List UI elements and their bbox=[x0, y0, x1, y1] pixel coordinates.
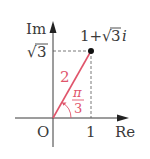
imag-axis-arrow-icon bbox=[50, 21, 57, 33]
point-label-value: 3 bbox=[111, 27, 121, 45]
point-label-prefix: 1+ bbox=[80, 27, 102, 45]
real-axis-label: Re bbox=[115, 123, 135, 141]
point-label-suffix: i bbox=[122, 27, 127, 45]
argument-denominator: 3 bbox=[74, 101, 82, 116]
y-tick-radical: √ bbox=[27, 43, 37, 61]
y-tick-value: 3 bbox=[37, 43, 47, 61]
argument-label: π 3 bbox=[72, 85, 84, 116]
imag-axis-label: Im bbox=[26, 20, 46, 38]
point-label: 1+ √ 3 i bbox=[80, 27, 127, 45]
complex-plane-diagram: Im Re O 1 √ 3 1+ √ 3 i 2 π 3 bbox=[0, 0, 150, 159]
complex-point bbox=[88, 48, 94, 54]
modulus-vector bbox=[53, 51, 91, 118]
y-tick-label: √ 3 bbox=[27, 43, 48, 61]
x-tick-label: 1 bbox=[86, 123, 96, 141]
origin-label: O bbox=[37, 123, 49, 141]
argument-numerator: π bbox=[72, 85, 82, 100]
modulus-label: 2 bbox=[60, 68, 70, 86]
real-axis-arrow-icon bbox=[117, 115, 129, 122]
